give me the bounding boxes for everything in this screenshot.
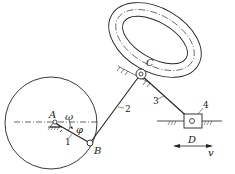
label-link-3: 3: [153, 96, 159, 106]
link-2: [90, 75, 140, 143]
label-link-1: 1: [65, 137, 71, 147]
label-link-4: 4: [203, 100, 209, 110]
label-a: A: [48, 109, 56, 120]
label-d: D: [187, 134, 196, 145]
label-phi: φ: [76, 124, 83, 135]
label-link-2: 2: [125, 104, 131, 114]
wheel-circle: [5, 77, 97, 169]
label-3-leader: [158, 96, 164, 99]
link-1: [55, 123, 90, 143]
mechanism-diagram: A B C D v ω φ 1 2 3 4: [0, 0, 235, 174]
joint-b: [87, 140, 93, 146]
phi-angle-arc: [60, 130, 62, 132]
slider-pin: [190, 119, 195, 124]
label-2-leader: [118, 107, 124, 108]
label-v: v: [208, 147, 214, 158]
label-b: B: [93, 145, 101, 156]
label-c: C: [146, 57, 154, 68]
label-omega: ω: [65, 111, 73, 122]
elliptical-ring: [96, 0, 215, 93]
joint-c-inner: [139, 72, 143, 76]
pivot-a: [48, 120, 62, 130]
arrowhead-left: [173, 144, 180, 148]
